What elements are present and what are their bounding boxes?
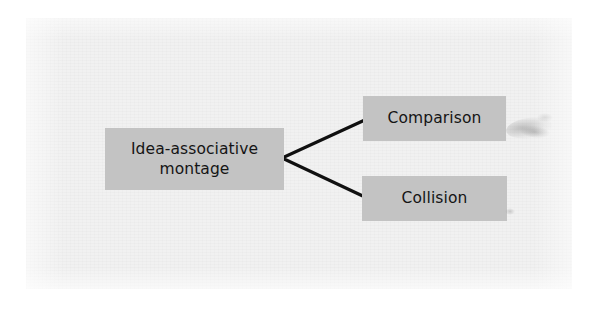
- node-comparison[interactable]: Comparison: [363, 96, 506, 141]
- screenshot-root: Idea-associative montage Comparison Coll…: [0, 0, 599, 309]
- node-label-comparison: Comparison: [388, 108, 482, 128]
- connector-lines: [0, 0, 599, 309]
- node-label-collision: Collision: [402, 188, 468, 208]
- node-label-root: Idea-associative montage: [131, 139, 258, 179]
- node-collision[interactable]: Collision: [362, 176, 507, 221]
- node-idea-associative-montage[interactable]: Idea-associative montage: [105, 128, 284, 190]
- tree-diagram: Idea-associative montage Comparison Coll…: [0, 0, 599, 309]
- connector-branch-path: [282, 119, 367, 198]
